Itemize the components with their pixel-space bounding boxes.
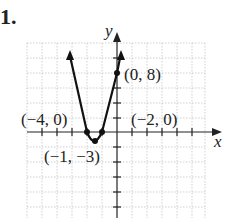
- point-neg2-0: [99, 129, 105, 135]
- label-neg4-0: (−4, 0): [21, 110, 67, 129]
- label-0-8: (0, 8): [124, 65, 161, 84]
- point-neg4-0: [84, 129, 90, 135]
- y-axis-label: y: [103, 21, 113, 40]
- label-neg2-0: (−2, 0): [131, 110, 177, 129]
- point-neg1-neg3: [92, 138, 98, 144]
- parabola-curve: [66, 50, 125, 141]
- point-0-8: [114, 70, 120, 76]
- parabola-graph: y x (0, 8) (−4, 0) (−2, 0) (−1, −3): [0, 0, 234, 218]
- label-neg1-neg3: (−1, −3): [44, 147, 100, 166]
- x-axis-label: x: [213, 132, 222, 151]
- x-axis: [27, 128, 222, 136]
- curve-arrow-right-icon: [117, 50, 125, 60]
- curve-arrow-left-icon: [66, 50, 74, 60]
- y-arrow-icon: [113, 32, 121, 42]
